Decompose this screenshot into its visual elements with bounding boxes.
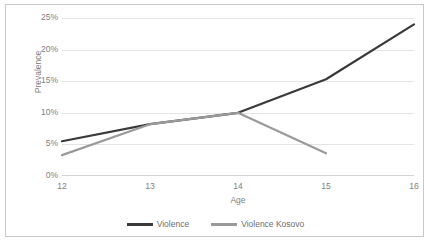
y-tick-label: 25% — [10, 13, 58, 22]
plot-area — [62, 18, 414, 176]
y-axis-tick-labels: 0%5%10%15%20%25% — [6, 18, 58, 176]
x-axis-title: Age — [62, 195, 414, 205]
legend-swatch-icon — [211, 223, 237, 226]
chart-legend: ViolenceViolence Kosovo — [6, 219, 425, 229]
x-tick-label: 12 — [32, 181, 92, 191]
legend-item[interactable]: Violence — [127, 219, 189, 229]
x-axis-tick-labels: 1213141516 — [62, 181, 414, 193]
chart-container: Prevalence 0%5%10%15%20%25% 1213141516 A… — [5, 4, 424, 237]
y-tick-label: 10% — [10, 108, 58, 117]
x-tick-label: 13 — [120, 181, 180, 191]
x-tick-label: 14 — [208, 181, 268, 191]
legend-label: Violence — [157, 219, 189, 229]
legend-label: Violence Kosovo — [241, 219, 304, 229]
y-tick-label: 5% — [10, 139, 58, 148]
legend-swatch-icon — [127, 223, 153, 226]
legend-item[interactable]: Violence Kosovo — [211, 219, 304, 229]
series-lines — [62, 18, 414, 176]
series-line — [62, 24, 414, 141]
y-tick-label: 0% — [10, 171, 58, 180]
x-tick-label: 15 — [296, 181, 356, 191]
y-tick-label: 15% — [10, 76, 58, 85]
y-tick-label: 20% — [10, 45, 58, 54]
x-tick-label: 16 — [384, 181, 430, 191]
